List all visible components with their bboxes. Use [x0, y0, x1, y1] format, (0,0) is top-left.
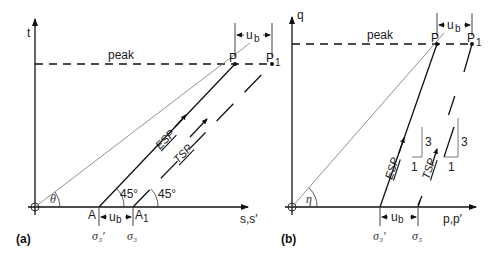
ub-bottom-sub: b	[116, 214, 122, 225]
peak-label: peak	[367, 28, 394, 42]
esp-label: ESP	[382, 155, 400, 180]
panel-a: t s,s′ peak θ ESP TSP 45° 45° P P 1 u	[16, 19, 281, 246]
point-p-label: P	[229, 51, 237, 65]
tsp-line	[133, 64, 272, 207]
angle-arc-tsp	[151, 189, 158, 207]
slope1-run: 1	[411, 160, 418, 174]
tsp-upper	[464, 44, 472, 72]
angle-esp-label: 45°	[120, 187, 138, 201]
sigma3-eff-label: σ₃′	[373, 229, 386, 243]
panel-b-label: (b)	[281, 232, 296, 246]
tsp-lower	[418, 196, 422, 205]
sigma3-label: σ₃	[412, 229, 422, 243]
point-p1-sub: 1	[476, 37, 482, 48]
panel-a-label: (a)	[16, 232, 31, 246]
point-p1-label: P	[266, 51, 274, 65]
esp-arrow	[399, 138, 404, 153]
point-a1-sub: 1	[143, 213, 149, 224]
ub-top-label: u	[246, 28, 253, 42]
tsp-label: TSP	[171, 141, 195, 165]
tsp-label: TSP	[419, 156, 437, 181]
q-axis-label: q	[297, 8, 304, 22]
point-a-label: A	[88, 208, 96, 222]
angle-tsp-label: 45°	[158, 187, 176, 201]
ub-bottom-sub: b	[398, 214, 404, 225]
s-axis-label: s,s′	[240, 212, 258, 226]
tsp-line	[418, 44, 472, 207]
slope2-rise: 3	[461, 135, 468, 149]
ub-top-sub: b	[254, 33, 260, 44]
failure-envelope	[292, 33, 444, 207]
failure-envelope	[35, 43, 250, 207]
slope2-run: 1	[448, 160, 455, 174]
stress-path-diagram: t s,s′ peak θ ESP TSP 45° 45° P P 1 u	[0, 0, 492, 258]
esp-arrow	[175, 115, 186, 127]
point-p1-label: P	[467, 31, 475, 45]
ub-top-sub: b	[455, 23, 461, 34]
slope-triangle-2-hyp	[444, 127, 454, 157]
point-p-label: P	[431, 31, 439, 45]
p-axis-label: p,p′	[443, 212, 463, 226]
peak-label: peak	[108, 48, 135, 62]
slope1-rise: 3	[425, 135, 432, 149]
slope-triangle-1	[412, 127, 422, 157]
esp-label: ESP	[153, 127, 177, 152]
ub-bottom-label: u	[109, 210, 116, 224]
theta-label: θ	[50, 192, 56, 206]
point-p1-sub: 1	[275, 57, 281, 68]
panel-b: q p,p′ peak η ESP TSP 3 1 3 1 P P 1	[281, 8, 482, 246]
t-axis-label: t	[27, 26, 31, 40]
ub-bottom-label: u	[391, 210, 398, 224]
ub-top-label: u	[447, 18, 454, 32]
sigma3-eff-label: σ₃′	[92, 229, 105, 243]
sigma3-label: σ₃	[127, 229, 137, 243]
eta-label: η	[306, 192, 312, 206]
esp-line	[380, 44, 437, 207]
point-a1-label: A	[135, 208, 143, 222]
